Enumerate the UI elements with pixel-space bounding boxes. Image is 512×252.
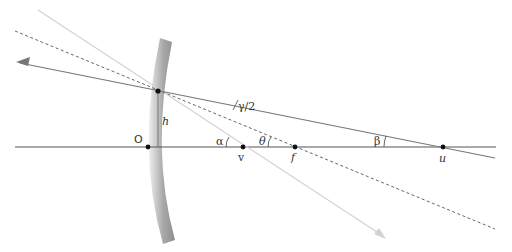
normal-dashed-line (15, 31, 495, 229)
incident-ray (38, 10, 383, 236)
label-v: v (237, 151, 245, 164)
arrowhead-icon (16, 57, 30, 66)
mirror-optics-diagram: O h γ/2 α θ β v f u (0, 0, 512, 252)
label-beta: β (374, 135, 380, 148)
label-h: h (162, 115, 169, 128)
concave-mirror (149, 38, 175, 244)
point-f (293, 145, 298, 150)
point-mirror-hit (155, 88, 160, 93)
arrowhead-icon (374, 228, 386, 239)
label-half-gamma: γ/2 (238, 100, 255, 113)
label-f: f (290, 151, 297, 164)
point-u (441, 145, 446, 150)
label-theta: θ (259, 135, 266, 148)
alpha-arc (226, 137, 229, 147)
point-v (241, 145, 246, 150)
label-u: u (439, 152, 446, 165)
label-origin: O (134, 133, 143, 146)
beta-arc (384, 136, 386, 147)
point-origin (146, 145, 151, 150)
reflected-ray (20, 63, 495, 158)
label-alpha: α (216, 135, 224, 148)
theta-arc (268, 137, 271, 147)
